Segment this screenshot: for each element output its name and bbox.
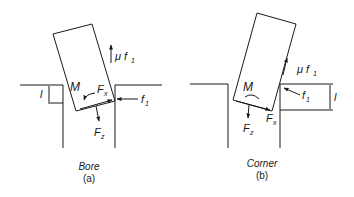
corner-left-wall xyxy=(190,84,228,148)
caption-sub: (b) xyxy=(256,170,268,181)
depth-label: l xyxy=(334,91,337,103)
f1-subscript: 1 xyxy=(306,96,310,103)
f1-subscript: 1 xyxy=(145,100,149,107)
fx-subscript: x xyxy=(103,90,108,97)
figure-canvas: M F x F z f 1 μ f 1 l Bore (a) M F xyxy=(0,0,354,197)
fx-arrow xyxy=(236,101,270,110)
panel-corner-labels: M F x F z f 1 μ f 1 l Corner (b) xyxy=(243,63,337,181)
moment-label: M xyxy=(243,80,253,94)
fz-subscript: z xyxy=(100,133,105,140)
mu-f1-arrow xyxy=(283,58,287,75)
moment-arrow xyxy=(245,95,259,99)
panel-bore xyxy=(20,24,162,148)
peg-rectangle xyxy=(53,24,115,111)
moment-label: M xyxy=(70,80,80,94)
mu-f1-subscript: 1 xyxy=(131,57,135,64)
fz-arrow xyxy=(96,106,99,121)
depth-label: l xyxy=(40,88,43,100)
caption-sub: (a) xyxy=(83,173,95,184)
fx-subscript: x xyxy=(272,119,277,126)
bore-right-wall xyxy=(115,85,162,148)
fz-arrow xyxy=(248,104,249,118)
corner-step xyxy=(280,84,333,148)
moment-arrow xyxy=(84,93,95,100)
panel-bore-labels: M F x F z f 1 μ f 1 l Bore (a) xyxy=(40,50,149,184)
mu-f1-subscript: 1 xyxy=(313,70,317,77)
panel-corner xyxy=(190,13,333,148)
caption-title: Bore xyxy=(78,161,100,172)
mu-f1-label: μ f xyxy=(296,63,310,75)
caption-title: Corner xyxy=(247,158,278,169)
fz-subscript: z xyxy=(249,129,254,136)
mu-f1-label: μ f xyxy=(114,50,128,62)
f1-arrow xyxy=(284,88,300,95)
